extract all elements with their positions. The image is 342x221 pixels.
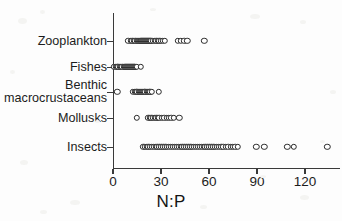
data-point xyxy=(134,115,140,121)
category-label-mollusks: Mollusks xyxy=(58,112,107,125)
category-label-line: Insects xyxy=(67,141,107,154)
scan-speckle xyxy=(20,160,28,165)
x-tick-label-120: 120 xyxy=(294,174,317,189)
data-point xyxy=(137,64,143,70)
scan-speckle xyxy=(10,70,15,74)
data-point xyxy=(162,38,168,44)
category-label-insects: Insects xyxy=(67,141,107,154)
scan-speckle xyxy=(40,10,45,14)
scan-speckle xyxy=(18,18,27,24)
category-label-line: Fishes xyxy=(70,61,107,74)
x-axis-title: N:P xyxy=(0,192,342,212)
data-point xyxy=(184,38,190,44)
category-label-line: Zooplankton xyxy=(38,35,107,48)
data-point xyxy=(324,144,330,150)
scan-speckle xyxy=(150,8,156,11)
x-tick-label-60: 60 xyxy=(201,174,216,189)
category-label-zooplankton: Zooplankton xyxy=(38,35,107,48)
data-point xyxy=(235,144,241,150)
data-point xyxy=(156,89,162,95)
data-point xyxy=(149,89,155,95)
data-point xyxy=(261,144,267,150)
chart-figure: 0306090120 ZooplanktonFishesBenthicmacro… xyxy=(0,0,342,221)
data-point xyxy=(253,144,259,150)
x-tick-label-0: 0 xyxy=(109,174,117,189)
x-tick-label-30: 30 xyxy=(153,174,168,189)
category-label-fishes: Fishes xyxy=(70,61,107,74)
category-label-line: Mollusks xyxy=(58,112,107,125)
data-point xyxy=(291,144,297,150)
plot-area xyxy=(113,13,342,169)
category-label-benthic-macrocrustaceans: Benthicmacrocrustaceans xyxy=(0,79,107,105)
x-tick-label-90: 90 xyxy=(249,174,264,189)
data-point xyxy=(114,89,120,95)
data-point xyxy=(176,115,182,121)
category-label-line: macrocrustaceans xyxy=(0,92,107,105)
data-point xyxy=(201,38,207,44)
